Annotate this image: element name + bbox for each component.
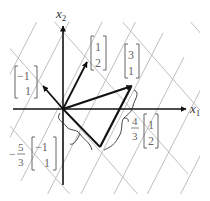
- svg-text:1: 1: [25, 84, 31, 98]
- vector-neg1-1: [43, 86, 63, 109]
- coordinate-diagram: x1 x2 −1 1 1 2 3 1 − 5 3 −1 1 4 3: [0, 0, 210, 201]
- grid-lines-diagonal: [0, 0, 210, 201]
- matrix-label-3-1: 3 1: [125, 44, 139, 78]
- grid-lines-steep: [0, 0, 210, 201]
- coefficient-label-b: 4 3 1 2: [131, 114, 158, 148]
- svg-text:1: 1: [148, 118, 154, 132]
- matrix-label-neg1-1: −1 1: [15, 66, 37, 98]
- svg-text:−1: −1: [17, 69, 30, 83]
- svg-text:2: 2: [148, 134, 154, 148]
- matrix-label-1-2: 1 2: [91, 36, 106, 70]
- svg-text:−: −: [9, 147, 16, 161]
- svg-text:1: 1: [95, 40, 101, 54]
- svg-text:3: 3: [18, 156, 24, 168]
- svg-text:4: 4: [132, 115, 138, 127]
- svg-text:−1: −1: [35, 140, 48, 154]
- svg-text:3: 3: [128, 48, 134, 62]
- x1-axis-label: x1: [189, 101, 200, 118]
- svg-text:1: 1: [128, 64, 134, 78]
- coefficient-label-a: − 5 3 −1 1: [9, 137, 56, 170]
- svg-text:1: 1: [44, 156, 50, 170]
- svg-text:5: 5: [18, 141, 24, 153]
- svg-text:2: 2: [95, 56, 101, 70]
- x2-axis-label: x2: [55, 6, 66, 23]
- svg-text:3: 3: [132, 130, 138, 142]
